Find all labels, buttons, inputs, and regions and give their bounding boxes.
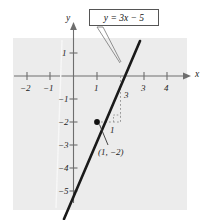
x-tick-label-4: 4 bbox=[164, 84, 169, 93]
graph-vector-layer bbox=[0, 0, 211, 220]
y-tick-label-neg1: −1 bbox=[58, 95, 69, 104]
x-axis bbox=[14, 72, 191, 80]
y-tick-label-neg4: −4 bbox=[58, 164, 69, 173]
point-coordinate-label: (1, −2) bbox=[98, 148, 124, 157]
x-tick-label-neg2: −2 bbox=[20, 84, 31, 93]
equation-label: y = 3x − 5 bbox=[104, 13, 144, 23]
y-tick-label-neg5: −5 bbox=[58, 187, 69, 196]
y-tick-label-neg3: −3 bbox=[58, 141, 69, 150]
equation-callout-box: y = 3x − 5 bbox=[89, 9, 159, 26]
y-tick-label-1: 1 bbox=[62, 49, 67, 58]
run-label: 1 bbox=[110, 126, 115, 135]
equation-leader-lines bbox=[97, 27, 121, 63]
x-tick-label-3: 3 bbox=[141, 84, 146, 93]
x-tick-label-neg1: −1 bbox=[43, 84, 54, 93]
plotted-point bbox=[94, 119, 100, 125]
y-tick-label-neg2: −2 bbox=[58, 118, 69, 127]
graph-figure: y = 3x − 5 y x −2 −1 1 3 4 1 −1 −2 −3 −4… bbox=[0, 0, 211, 220]
right-angle-marker bbox=[114, 115, 121, 122]
x-axis-label: x bbox=[195, 70, 199, 80]
rise-label: 3 bbox=[124, 91, 129, 100]
x-tick-label-1: 1 bbox=[94, 84, 99, 93]
y-axis bbox=[70, 22, 78, 203]
y-axis-label: y bbox=[66, 14, 70, 24]
